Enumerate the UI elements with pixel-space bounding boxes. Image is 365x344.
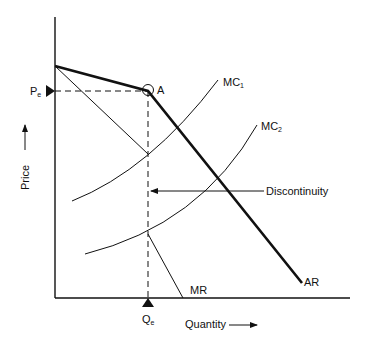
pe-marker-icon	[46, 85, 55, 97]
mc2-label: MC2	[261, 120, 282, 133]
pe-label: Pe	[30, 85, 41, 98]
qe-label: Qe	[142, 313, 155, 326]
x-axis-title: Quantity	[185, 318, 257, 330]
mc2-curve	[85, 125, 257, 254]
svg-text:Price: Price	[19, 165, 31, 190]
mc1-curve	[72, 80, 218, 201]
svg-text:Quantity: Quantity	[185, 318, 226, 330]
y-axis-title: Price	[19, 125, 31, 190]
point-a-label: A	[157, 84, 165, 96]
mr-curve-lower	[148, 234, 183, 298]
kinked-demand-diagram: Pe Qe A MC1 MC2 Discontinuity MR AR Quan…	[0, 0, 365, 344]
qe-marker-icon	[142, 298, 154, 307]
discontinuity-label: Discontinuity	[266, 185, 329, 197]
ar-label: AR	[304, 276, 319, 288]
mr-label: MR	[190, 284, 207, 296]
ar-demand-curve	[55, 66, 302, 283]
mc1-label: MC1	[223, 76, 244, 89]
